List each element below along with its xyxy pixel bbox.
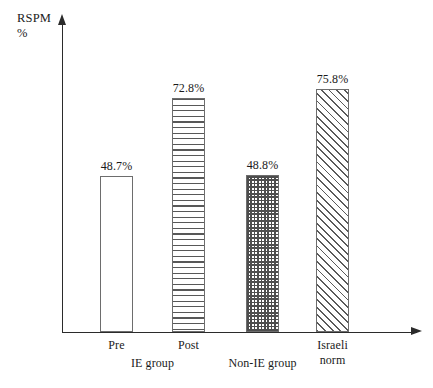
rspm-bar-chart: RSPM % 48.7% 72.8% 48.8% 75.8% Pre Post … <box>0 0 433 388</box>
bar-post <box>172 98 205 332</box>
bar-israeli-norm <box>316 89 349 332</box>
group-label-israeli-line2: norm <box>288 353 378 368</box>
value-label-israeli-norm: 75.8% <box>293 72 373 86</box>
group-label-israeli-norm: Israeli norm <box>288 338 378 368</box>
value-label-post: 72.8% <box>149 81 229 95</box>
tick-label-post: Post <box>149 338 229 353</box>
plot-area: 48.7% 72.8% 48.8% 75.8% Pre Post IE grou… <box>0 0 433 388</box>
bar-non-ie-group <box>246 175 279 332</box>
tick-label-pre: Pre <box>77 338 157 353</box>
group-label-ie-group: IE group <box>103 356 203 371</box>
group-label-israeli-line1: Israeli <box>317 338 348 352</box>
value-label-non-ie-group: 48.8% <box>223 158 303 172</box>
value-label-pre: 48.7% <box>77 159 157 173</box>
bar-pre <box>100 176 133 332</box>
